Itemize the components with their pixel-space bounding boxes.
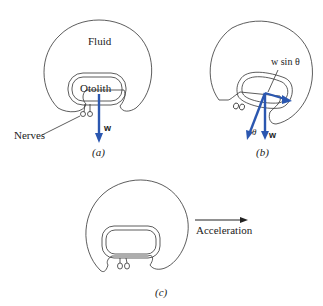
otolith-label: Otolith — [80, 83, 111, 94]
otolith-diagram — [0, 0, 323, 306]
caption-b: (b) — [256, 147, 269, 158]
nerves-leader — [42, 116, 80, 135]
otolith-inner-c — [106, 230, 156, 254]
panel-b — [210, 21, 312, 124]
caption-c: (c) — [155, 287, 167, 298]
angle-label-b: θ — [252, 128, 256, 137]
acceleration-label: Acceleration — [196, 225, 252, 236]
acceleration-arrow-head — [240, 217, 248, 223]
weight-label-a: w — [104, 124, 111, 133]
nerves-label: Nerves — [14, 130, 45, 141]
panel-c — [86, 180, 188, 272]
fluid-label: Fluid — [88, 36, 111, 47]
weight-label-b: w — [269, 131, 276, 140]
component-label-b: w sin θ — [271, 57, 300, 67]
caption-a: (a) — [92, 147, 105, 158]
